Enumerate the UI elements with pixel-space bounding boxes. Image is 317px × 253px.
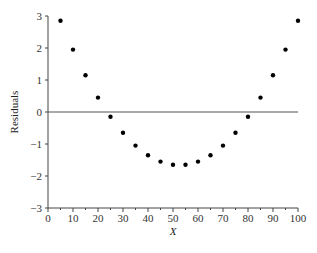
x-tick-label: 0 [45,212,51,224]
data-point [171,163,175,167]
y-tick-label: −3 [30,202,42,214]
data-point [146,153,150,157]
x-tick-label: 20 [93,212,105,224]
y-tick-label: 2 [37,42,43,54]
data-point [296,19,300,23]
data-point [83,73,87,77]
axes: −3−2−101230102030405060708090100 [30,10,306,224]
x-tick-label: 50 [168,212,180,224]
data-point [133,143,137,147]
data-point [58,19,62,23]
data-point [283,47,287,51]
x-tick-label: 90 [268,212,280,224]
y-tick-label: −1 [30,138,42,150]
data-point [221,143,225,147]
x-tick-label: 60 [193,212,205,224]
data-point [196,159,200,163]
data-point [121,131,125,135]
data-point [108,115,112,119]
data-point [258,95,262,99]
data-point [71,47,75,51]
data-points [58,19,300,167]
data-point [96,95,100,99]
x-tick-label: 40 [143,212,155,224]
y-tick-label: −2 [30,170,42,182]
x-axis-title: X [169,225,178,237]
y-tick-label: 1 [37,74,43,86]
x-tick-label: 10 [68,212,80,224]
data-point [183,163,187,167]
y-tick-label: 0 [37,106,43,118]
x-tick-label: 70 [218,212,230,224]
y-axis-title: Residuals [8,91,20,134]
data-point [158,159,162,163]
y-tick-label: 3 [37,10,43,22]
data-point [208,153,212,157]
x-tick-label: 30 [118,212,130,224]
data-point [246,115,250,119]
data-point [233,131,237,135]
data-point [271,73,275,77]
x-tick-label: 100 [290,212,307,224]
residual-scatter-chart: −3−2−101230102030405060708090100 X Resid… [0,0,317,253]
x-tick-label: 80 [243,212,255,224]
